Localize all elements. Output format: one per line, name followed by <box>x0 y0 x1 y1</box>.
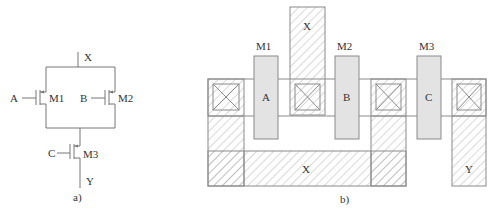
caption-a: a) <box>73 191 82 204</box>
m3-label: M3 <box>83 148 99 160</box>
layout-gate-b-label: B <box>343 91 350 103</box>
layout-gate-a-label: A <box>262 91 270 103</box>
gate-b-label: B <box>80 92 87 104</box>
caption-b: b) <box>340 193 350 206</box>
layout-m3-label: M3 <box>419 40 435 52</box>
node-y-label: Y <box>86 175 94 187</box>
layout-m1-label: M1 <box>256 40 271 52</box>
m1-label: M1 <box>49 92 64 104</box>
layout-m2-label: M2 <box>337 40 352 52</box>
m2-label: M2 <box>118 92 133 104</box>
layout-bottom-x-label: X <box>302 163 310 175</box>
schematic <box>22 52 115 188</box>
layout-top-x-label: X <box>303 20 311 32</box>
layout-gate-c-label: C <box>425 91 432 103</box>
diagram-canvas: X A M1 B M2 C M3 Y a) <box>0 0 496 214</box>
layout-y-label: Y <box>465 163 473 175</box>
gate-a-label: A <box>10 92 18 104</box>
gate-c-label: C <box>48 147 55 159</box>
node-x-label: X <box>84 51 92 63</box>
